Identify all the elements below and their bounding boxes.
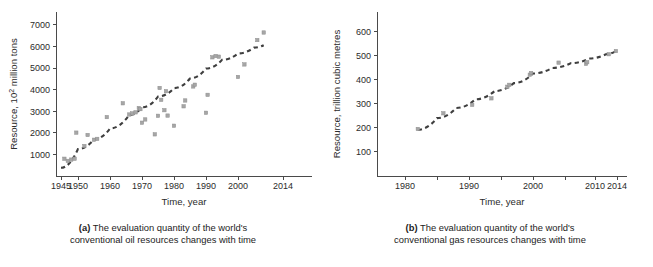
x-tick-label: 1990	[196, 181, 216, 191]
data-point	[217, 55, 220, 58]
x-tick-label: 1980	[164, 181, 184, 191]
data-point	[182, 105, 185, 108]
y-tick-label: 3000	[30, 107, 50, 117]
data-point	[139, 107, 142, 110]
caption-text-a-line2: conventional oil resources changes with …	[70, 234, 256, 245]
data-point	[163, 108, 166, 111]
data-point	[128, 113, 131, 116]
data-point	[557, 61, 560, 64]
data-point	[166, 114, 169, 117]
x-tick-label: 2014	[607, 181, 627, 191]
caption-panel-b: (b) The evaluation quantity of the world…	[327, 222, 653, 245]
y-tick-label: 7000	[30, 20, 50, 30]
panel-oil-resources: 1000200030004000500060007000194519501960…	[0, 0, 326, 267]
data-point	[158, 86, 161, 89]
data-point	[204, 111, 207, 114]
x-tick-label: 2000	[228, 181, 248, 191]
data-point	[236, 75, 239, 78]
data-point	[160, 98, 163, 101]
data-point	[83, 144, 86, 147]
data-point	[529, 71, 532, 74]
y-tick-label: 5000	[30, 63, 50, 73]
y-tick-label: 200	[356, 123, 371, 133]
data-point	[134, 111, 137, 114]
caption-text-a-line1: The evaluation quantity of the world's	[93, 222, 248, 233]
data-point	[214, 54, 217, 57]
trend-line	[61, 45, 264, 168]
data-point	[70, 158, 73, 161]
data-point	[131, 112, 134, 115]
data-point	[490, 97, 493, 100]
caption-text-b-line2: conventional gas resources changes with …	[394, 234, 586, 245]
data-points-group	[416, 49, 617, 130]
x-tick-label: 1950	[68, 181, 88, 191]
data-point	[75, 131, 78, 134]
x-tick-label: 1990	[459, 181, 479, 191]
data-point	[92, 138, 95, 141]
data-point	[105, 115, 108, 118]
caption-tag-b: (b)	[406, 222, 418, 233]
data-point	[184, 99, 187, 102]
data-point	[172, 124, 175, 127]
panel-gas-resources: 10020030040050060019801990200020102014Ti…	[327, 0, 653, 267]
data-point	[416, 127, 419, 130]
data-point	[164, 89, 167, 92]
x-tick-label: 2000	[523, 181, 543, 191]
data-point	[442, 112, 445, 115]
data-point	[121, 102, 124, 105]
x-tick-label: 1960	[100, 181, 120, 191]
x-axis-title: Time, year	[480, 196, 526, 207]
x-axis-title: Time, year	[162, 196, 208, 207]
y-tick-label: 400	[356, 75, 371, 85]
data-point	[140, 121, 143, 124]
y-tick-label: 300	[356, 99, 371, 109]
data-point	[193, 83, 196, 86]
caption-tag-a: (a)	[79, 222, 90, 233]
data-points-group	[63, 31, 266, 163]
data-point	[66, 159, 69, 162]
data-point	[243, 63, 246, 66]
y-tick-label: 500	[356, 51, 371, 61]
data-point	[586, 60, 589, 63]
data-point	[73, 157, 76, 160]
caption-panel-a: (a) The evaluation quantity of the world…	[0, 222, 326, 245]
gas-resources-scatter-plot: 10020030040050060019801990200020102014Ti…	[327, 0, 653, 215]
data-point	[508, 83, 511, 86]
data-point	[63, 157, 66, 160]
y-tick-label: 600	[356, 27, 371, 37]
y-tick-label: 2000	[30, 128, 50, 138]
data-point	[144, 118, 147, 121]
y-axis-title: Resource, trillion cubic metres	[331, 30, 342, 159]
y-tick-label: 4000	[30, 85, 50, 95]
y-tick-label: 1000	[30, 150, 50, 160]
y-tick-label: 6000	[30, 42, 50, 52]
y-tick-label: 100	[356, 147, 371, 157]
x-tick-label: 1980	[395, 181, 415, 191]
x-tick-label: 2010	[585, 181, 605, 191]
data-point	[256, 38, 259, 41]
data-point	[614, 49, 617, 52]
y-axis-title: Resource, 102 million tons	[8, 38, 19, 150]
data-point	[262, 31, 265, 34]
data-point	[96, 137, 99, 140]
data-point	[86, 133, 89, 136]
data-point	[607, 53, 610, 56]
data-point	[211, 56, 214, 59]
data-point	[471, 103, 474, 106]
x-tick-label: 2014	[273, 181, 293, 191]
data-point	[156, 114, 159, 117]
data-point	[153, 133, 156, 136]
data-point	[206, 93, 209, 96]
figure-root: 1000200030004000500060007000194519501960…	[0, 0, 653, 267]
oil-resources-scatter-plot: 1000200030004000500060007000194519501960…	[0, 0, 326, 215]
x-tick-label: 1970	[132, 181, 152, 191]
caption-text-b-line1: The evaluation quantity of the world's	[420, 222, 575, 233]
